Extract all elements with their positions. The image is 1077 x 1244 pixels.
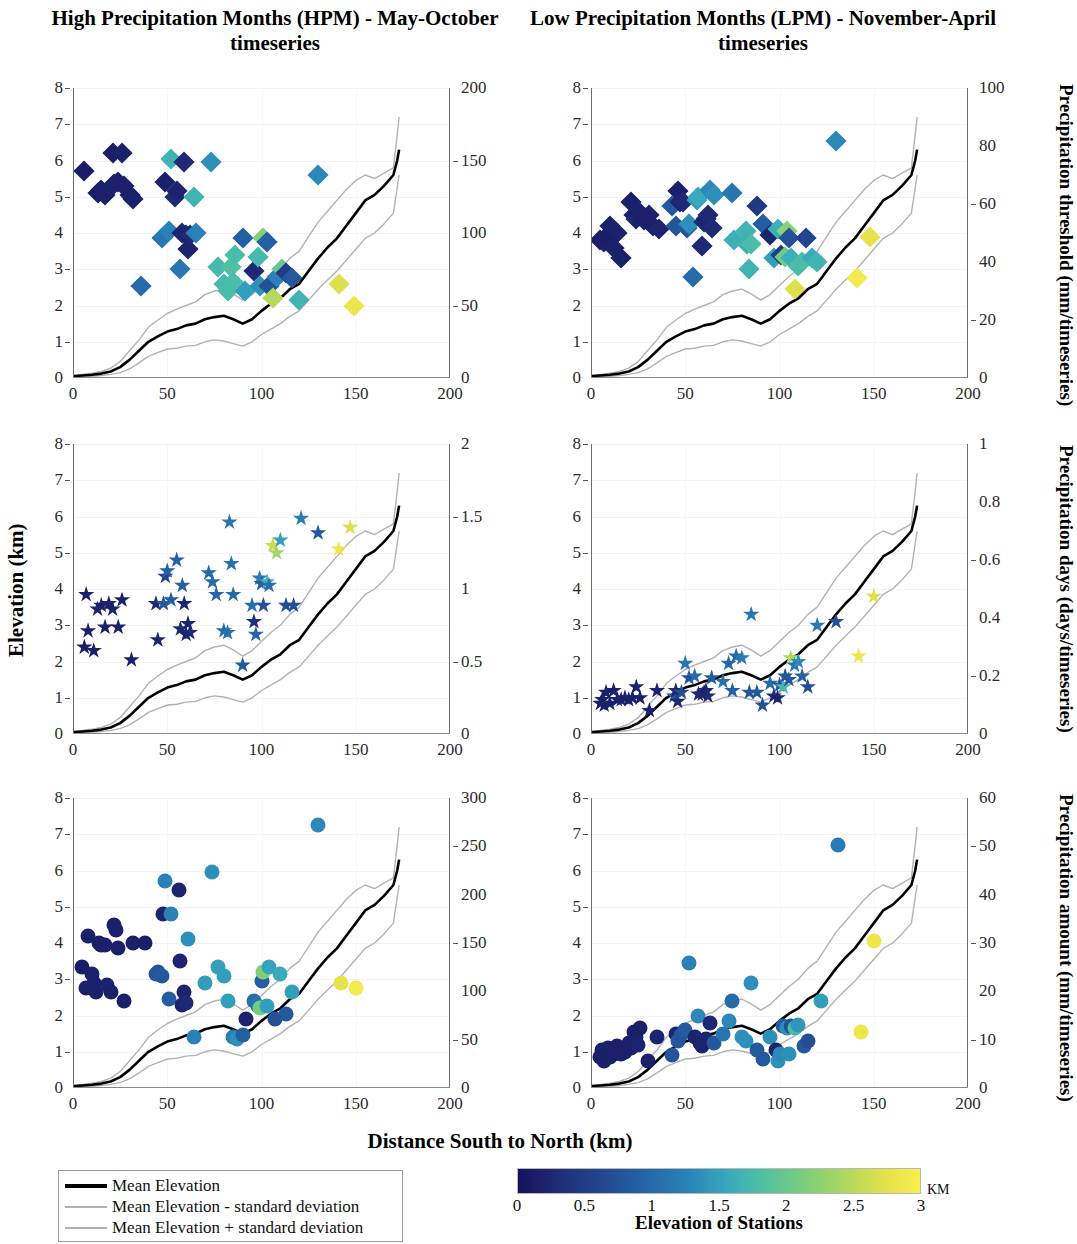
y-tick-left: 2: [553, 653, 581, 670]
plot-area: [73, 798, 450, 1088]
y-tick-right: 100: [461, 224, 509, 241]
station-marker-circle: [273, 966, 288, 981]
y-tick-right: 0: [979, 369, 1027, 386]
axis-bottom: [591, 1087, 968, 1088]
x-tick: 150: [861, 741, 887, 758]
legend-item: Mean Elevation - standard deviation: [65, 1196, 396, 1217]
y-tick-right: 10: [979, 1031, 1027, 1048]
y-tick-left: 7: [553, 471, 581, 488]
y-tick-right: 0: [461, 725, 509, 742]
y-tick-left: 5: [35, 188, 63, 205]
station-marker-circle: [284, 984, 299, 999]
panel-title-left: High Precipitation Months (HPM) - May-Oc…: [40, 6, 510, 56]
elevation-profile-curves: [73, 444, 450, 734]
y-tick-mark: [65, 698, 70, 699]
y-tick-left: 8: [553, 789, 581, 806]
x-tick: 100: [767, 385, 793, 402]
legend-label: Mean Elevation - standard deviation: [112, 1197, 359, 1217]
y-tick-left: 6: [553, 152, 581, 169]
y-tick-left: 6: [553, 862, 581, 879]
plot-panel-r1c2: [591, 88, 968, 378]
y-tick-left: 3: [35, 970, 63, 987]
y-tick-right: 0: [461, 369, 509, 386]
axis-right: [449, 444, 450, 734]
y-tick-left: 7: [35, 471, 63, 488]
station-marker-circle: [721, 1013, 736, 1028]
y-tick-right: 50: [461, 1031, 509, 1048]
station-marker-circle: [111, 941, 126, 956]
station-marker-circle: [755, 1052, 770, 1067]
y-axis-label-right-r2c2: Precipitation days (days/timeseries): [1030, 440, 1076, 738]
y-tick-mark: [65, 625, 70, 626]
y-tick-right: 20: [979, 982, 1027, 999]
y-tick-left: 1: [553, 333, 581, 350]
legend-label: Mean Elevation: [112, 1176, 220, 1196]
y-tick-left: 0: [35, 725, 63, 742]
y-tick-mark: [65, 798, 70, 799]
station-marker-circle: [197, 975, 212, 990]
axis-left: [73, 444, 74, 734]
curve-mean-elevation: [73, 506, 399, 733]
station-marker-circle: [116, 994, 131, 1009]
station-marker-circle: [781, 1046, 796, 1061]
plot-panel-r3c1: [73, 798, 450, 1088]
y-tick-right: 20: [979, 311, 1027, 328]
x-tick: 100: [767, 1095, 793, 1112]
colorbar-title: Elevation of Stations: [517, 1212, 921, 1234]
y-axis-label-elevation: Elevation (km): [4, 455, 29, 725]
station-marker-circle: [631, 1037, 646, 1052]
y-tick-left: 1: [553, 689, 581, 706]
axis-right: [449, 798, 450, 1088]
y-tick-left: 7: [35, 825, 63, 842]
y-tick-mark: [583, 979, 588, 980]
y-tick-left: 1: [35, 1043, 63, 1060]
x-tick: 50: [677, 741, 694, 758]
y-tick-left: 4: [553, 934, 581, 951]
x-tick: 200: [955, 385, 981, 402]
y-tick-mark: [583, 553, 588, 554]
x-axis-label-distance: Distance South to North (km): [0, 1129, 1000, 1154]
axis-left: [73, 798, 74, 1088]
y-tick-left: 6: [553, 508, 581, 525]
station-marker-circle: [171, 883, 186, 898]
y-tick-left: 0: [553, 725, 581, 742]
station-marker-circle: [333, 975, 348, 990]
y-tick-left: 4: [35, 934, 63, 951]
y-tick-left: 2: [553, 1007, 581, 1024]
x-tick: 50: [159, 741, 176, 758]
axis-bottom: [591, 377, 968, 378]
station-marker-circle: [640, 1053, 655, 1068]
y-tick-mark: [65, 444, 70, 445]
legend-line-minus-sd-icon: [65, 1206, 107, 1208]
y-tick-mark: [971, 943, 976, 944]
y-tick-left: 1: [35, 333, 63, 350]
y-tick-mark: [65, 480, 70, 481]
x-tick: 150: [343, 385, 369, 402]
y-tick-mark: [453, 846, 458, 847]
legend: Mean Elevation Mean Elevation - standard…: [58, 1170, 403, 1242]
x-tick: 0: [587, 385, 596, 402]
y-tick-left: 4: [553, 224, 581, 241]
y-tick-right: 60: [979, 789, 1027, 806]
x-tick: 0: [69, 1095, 78, 1112]
y-tick-left: 3: [553, 260, 581, 277]
y-tick-right: 0: [979, 725, 1027, 742]
y-tick-mark: [971, 560, 976, 561]
station-marker-circle: [348, 981, 363, 996]
y-tick-mark: [453, 306, 458, 307]
y-tick-left: 5: [553, 544, 581, 561]
station-marker-circle: [830, 838, 845, 853]
station-marker-circle: [235, 1028, 250, 1043]
y-tick-right: 0: [461, 1079, 509, 1096]
plot-area: [591, 444, 968, 734]
curve-mean-elevation-standard-deviation: [591, 531, 917, 733]
station-marker-circle: [649, 1030, 664, 1045]
station-marker-circle: [109, 923, 124, 938]
y-tick-right: 60: [979, 195, 1027, 212]
y-tick-left: 7: [553, 115, 581, 132]
y-tick-right: 0.2: [979, 667, 1027, 684]
axis-left: [73, 88, 74, 378]
y-tick-left: 3: [35, 260, 63, 277]
station-marker-circle: [866, 934, 881, 949]
y-tick-mark: [453, 161, 458, 162]
